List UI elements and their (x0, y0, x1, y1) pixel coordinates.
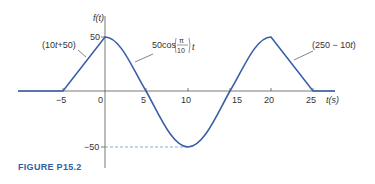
right-ramp-label: (250 − 10t) (312, 40, 356, 50)
svg-text:10: 10 (181, 95, 191, 105)
svg-text:5: 5 (141, 95, 146, 105)
svg-text:50: 50 (90, 32, 100, 42)
waveform-figure: −5 0 5 10 15 20 25 t(s) 50 −50 f(t) (10t… (0, 0, 375, 184)
x-axis-label: t(s) (326, 95, 339, 105)
x-ticks (63, 37, 313, 147)
left-ramp-label: (10t+50) (42, 40, 76, 50)
figure-caption: FIGURE P15.2 (18, 162, 82, 172)
svg-text:15: 15 (232, 95, 242, 105)
svg-text:−5: −5 (56, 95, 66, 105)
svg-text:20: 20 (264, 95, 274, 105)
svg-text:10: 10 (177, 47, 185, 54)
y-axis-label: f(t) (93, 13, 104, 23)
svg-text:25: 25 (306, 95, 316, 105)
svg-text:0: 0 (98, 95, 103, 105)
svg-text:π: π (179, 37, 184, 44)
svg-text:t: t (192, 42, 195, 52)
svg-text:−50: −50 (84, 142, 99, 152)
cosine-label: 50cos (152, 40, 177, 50)
